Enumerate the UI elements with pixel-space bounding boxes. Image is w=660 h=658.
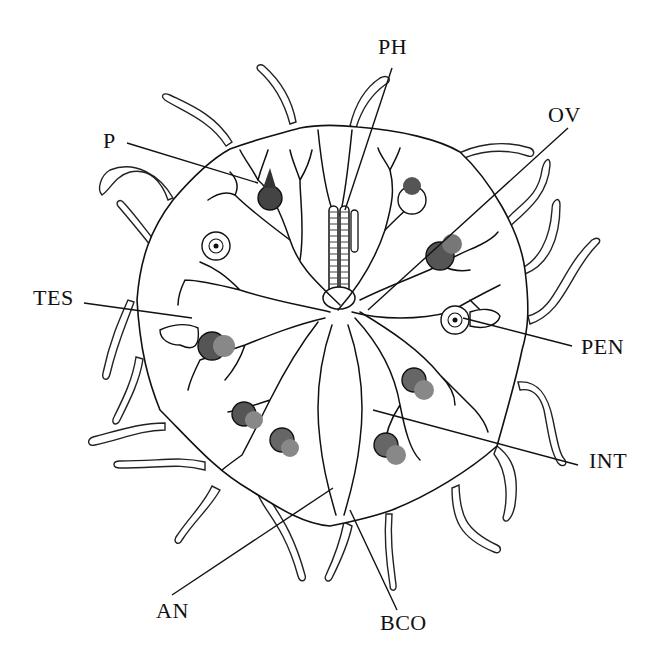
label-testis: TES xyxy=(33,287,74,309)
label-anus: AN xyxy=(156,600,189,622)
label-p: P xyxy=(103,130,116,152)
label-intestine: INT xyxy=(589,450,627,472)
diagram-stage: PH P OV TES PEN INT AN BCO xyxy=(0,0,660,658)
label-pharynx: PH xyxy=(378,36,407,58)
label-penis: PEN xyxy=(581,336,624,358)
label-ovary: OV xyxy=(548,104,581,126)
label-bco: BCO xyxy=(380,612,427,634)
organism-illustration xyxy=(0,0,660,658)
